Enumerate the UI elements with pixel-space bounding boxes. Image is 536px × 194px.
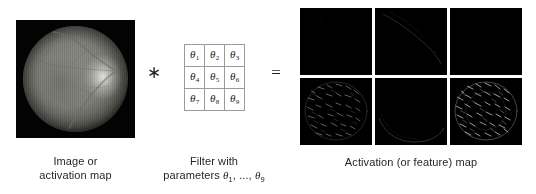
theta-symbol: θ	[190, 48, 195, 60]
filter-cell-2: θ2	[205, 45, 225, 67]
theta-symbol: θ	[190, 70, 195, 82]
activation-texture	[300, 8, 372, 75]
input-caption-line2: activation map	[39, 169, 111, 181]
theta-index: 9	[236, 98, 240, 106]
theta-symbol: θ	[230, 92, 235, 104]
filter-cell-6: θ6	[225, 67, 245, 89]
filter-cell-1: θ1	[185, 45, 205, 67]
theta-index: 3	[236, 54, 240, 62]
filter-cell-4: θ4	[185, 67, 205, 89]
filter-cell-9: θ9	[225, 89, 245, 111]
activation-texture	[450, 8, 522, 75]
activation-cell-top-right	[450, 8, 522, 75]
theta-symbol: θ	[210, 92, 215, 104]
activation-texture	[375, 78, 447, 145]
fundus-scanline-texture	[23, 26, 128, 132]
activation-map-grid	[300, 8, 522, 145]
theta-index: 7	[196, 98, 200, 106]
activation-texture	[300, 78, 372, 145]
filter-caption-ellipsis: , ...,	[233, 169, 255, 181]
filter-cell-5: θ5	[205, 67, 225, 89]
activation-cell-top-center	[375, 8, 447, 75]
equals-operator: =	[268, 64, 284, 81]
activation-cell-top-left	[300, 8, 372, 75]
theta-index: 6	[236, 76, 240, 84]
theta-symbol: θ	[210, 70, 215, 82]
filter-cell-8: θ8	[205, 89, 225, 111]
activation-cell-bottom-center	[375, 78, 447, 145]
filter-matrix-row: θ4 θ5 θ6	[185, 67, 245, 89]
activation-cell-bottom-left	[300, 78, 372, 145]
convolution-operator: ∗	[146, 64, 162, 81]
filter-caption-line2: parameters θ1, ..., θ9	[163, 169, 264, 181]
theta-index: 2	[216, 54, 220, 62]
theta-index: 5	[216, 76, 220, 84]
filter-caption: Filter with parameters θ1, ..., θ9	[149, 155, 279, 186]
activation-texture	[375, 8, 447, 75]
theta-symbol: θ	[230, 48, 235, 60]
filter-cell-3: θ3	[225, 45, 245, 67]
activation-texture	[450, 78, 522, 145]
theta-symbol: θ	[230, 70, 235, 82]
output-caption: Activation (or feature) map	[300, 156, 522, 170]
input-caption-line1: Image or	[53, 155, 97, 167]
theta-symbol: θ	[190, 92, 195, 104]
filter-matrix-row: θ7 θ8 θ9	[185, 89, 245, 111]
theta-symbol: θ	[210, 48, 215, 60]
theta-index: 8	[216, 98, 220, 106]
filter-matrix: θ1 θ2 θ3 θ4 θ5 θ6 θ7 θ8 θ9	[184, 44, 245, 111]
input-caption: Image or activation map	[16, 155, 135, 182]
filter-matrix-row: θ1 θ2 θ3	[185, 45, 245, 67]
theta-index: 9	[260, 175, 264, 184]
activation-cell-bottom-right	[450, 78, 522, 145]
theta-index: 1	[196, 54, 200, 62]
filter-cell-7: θ7	[185, 89, 205, 111]
input-image	[16, 20, 135, 138]
filter-caption-line1: Filter with	[190, 155, 238, 167]
theta-index: 4	[196, 76, 200, 84]
filter-caption-prefix: parameters	[163, 169, 223, 181]
